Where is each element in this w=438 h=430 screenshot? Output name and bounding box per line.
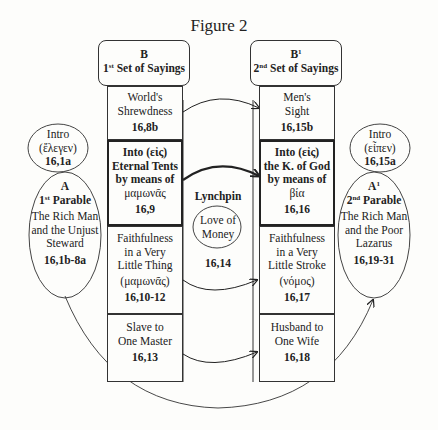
arrow-into — [183, 166, 259, 180]
left-header-letter: B — [99, 47, 189, 61]
left-header: B 1st Set of Sayings — [98, 40, 190, 86]
right-header-label: 2nd Set of Sayings — [251, 61, 341, 75]
right-cell-mens-sight: Men'sSight 16,15b — [259, 86, 335, 140]
right-intro: Intro(εἶπεν) 16,15a — [350, 128, 410, 169]
left-cell-faithfulness: Faithfulnessin a Very Little Thing(μαμων… — [107, 226, 183, 314]
arrow-shrewdness — [183, 99, 259, 112]
figure-title: Figure 2 — [0, 16, 438, 36]
left-intro: Intro(ἔλεγεν) 16,1a — [28, 128, 88, 169]
love-of-money-label: Love ofMoney — [183, 214, 253, 241]
arrow-faithfulness — [183, 280, 257, 290]
ref-label: 16,16 — [261, 203, 333, 217]
right-cell-kingdom-of-god: Into (εἰς)the K. of God by means ofβία 1… — [259, 140, 335, 226]
left-cell-worlds-shrewdness: World'sShrewdness 16,8b — [107, 86, 183, 140]
ref-label: 16,17 — [260, 291, 334, 305]
right-parable: A1 2nd Parable The Rich Man and the Poor… — [338, 180, 410, 267]
ref-label: 16,8b — [108, 121, 182, 135]
left-cell-slave: Slave toOne Master 16,13 — [107, 314, 183, 382]
left-parable: A 1st Parable The Rich Man and the Unjus… — [29, 180, 101, 267]
ref-label: 16,15b — [260, 121, 334, 135]
right-cell-faithfulness: Faithfulnessin a Very Little Stroke(νόμο… — [259, 226, 335, 314]
right-cell-husband: Husband toOne Wife 16,18 — [259, 314, 335, 382]
right-header: B1 2nd Set of Sayings — [250, 40, 342, 86]
lynchpin-ref: 16,14 — [183, 257, 253, 271]
ref-label: 16,13 — [108, 351, 182, 365]
lynchpin-title: Lynchpin — [183, 190, 253, 204]
ref-label: 16,10-12 — [108, 291, 182, 305]
left-header-label: 1st Set of Sayings — [99, 61, 189, 75]
ref-label: 16,9 — [109, 203, 181, 217]
left-cell-eternal-tents: Into (εἰς)Eternal Tents by means ofμαμων… — [107, 140, 183, 226]
arrow-slave-husband — [183, 352, 257, 363]
ref-label: 16,18 — [260, 351, 334, 365]
right-header-letter: B1 — [251, 47, 341, 61]
